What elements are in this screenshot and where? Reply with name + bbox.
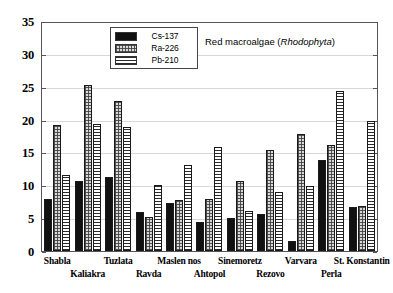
bar-group [286,23,316,251]
x-tick-label: Kaliakra [57,269,119,280]
bar-group [42,23,72,251]
y-tick-label: 30 [22,47,34,62]
chart-legend: Cs-137 Ra-226 Pb-210 [110,27,198,69]
bar-pb-210-maslen-nos [184,165,192,251]
bar-cs-137-ravda [136,212,144,251]
x-tick-label: Shabla [26,256,88,267]
bar-pb-210-sinemoretz [245,211,253,251]
bar-pb-210-varvara [306,186,314,251]
x-tick-label: Varvara [270,256,332,267]
bar-cs-137-kaliakra [75,181,83,251]
bar-ra-226-maslen-nos [175,200,183,251]
bar-ra-226-kaliakra [84,85,92,251]
x-tick-label: Tuzlata [87,256,149,267]
y-tick-label: 25 [22,80,34,95]
bar-cs-137-st-konstantin [349,207,357,251]
y-tick-label: 10 [22,179,34,194]
legend-item-cs-137: Cs-137 [115,31,193,41]
legend-label-pb-210: Pb-210 [137,55,193,65]
bar-group [225,23,255,251]
bar-cs-137-tuzlata [105,177,113,251]
legend-swatch-pb-210 [115,56,137,65]
bar-pb-210-shabla [62,175,70,251]
x-tick-label: Ahtopol [179,269,241,280]
bar-pb-210-rezovo [275,192,283,251]
bar-ra-226-st-konstantin [358,206,366,251]
legend-swatch-ra-226 [115,44,137,53]
bar-cs-137-sinemoretz [227,218,235,251]
bar-groups [42,23,377,251]
annotation-taxon: Rhodophyta [281,36,332,47]
bar-cs-137-rezovo [257,214,265,251]
bar-cs-137-perla [318,160,326,251]
bar-ra-226-perla [327,145,335,251]
bar-pb-210-st-konstantin [367,121,375,251]
annotation-suffix: ) [332,36,335,47]
bar-ra-226-rezovo [266,150,274,251]
bar-pb-210-ahtopol [214,147,222,251]
bar-pb-210-tuzlata [123,127,131,251]
legend-item-ra-226: Ra-226 [115,43,193,53]
bar-pb-210-kaliakra [93,124,101,251]
legend-label-cs-137: Cs-137 [137,31,193,41]
x-tick-label: Rezovo [239,269,301,280]
bar-group [72,23,102,251]
bar-ra-226-varvara [297,134,305,251]
bar-group [347,23,377,251]
bar-cs-137-varvara [288,241,296,251]
bar-cs-137-maslen-nos [166,203,174,251]
y-tick-label: 15 [22,146,34,161]
x-tick-label: Maslen nos [148,256,210,267]
bar-group [255,23,285,251]
bar-cs-137-shabla [44,199,52,251]
x-axis-labels: ShablaKaliakraTuzlataRavdaMaslen nosAhto… [42,252,377,293]
bar-ra-226-ahtopol [205,199,213,251]
bar-group [194,23,224,251]
legend-label-ra-226: Ra-226 [137,43,193,53]
bar-group [316,23,346,251]
x-tick-label: Perla [300,269,362,280]
bar-ra-226-shabla [53,125,61,251]
bar-ra-226-sinemoretz [236,181,244,251]
y-axis: 05101520253035 [0,0,41,293]
legend-item-pb-210: Pb-210 [115,55,193,65]
bar-pb-210-ravda [154,185,162,251]
legend-swatch-cs-137 [115,32,137,41]
x-tick-label: Ravda [118,269,180,280]
y-tick-label: 5 [28,212,34,227]
bar-ra-226-tuzlata [114,101,122,251]
bar-cs-137-ahtopol [196,222,204,251]
x-tick-label: Sinemoretz [209,256,271,267]
y-tick-label: 20 [22,113,34,128]
chart-annotation: Red macroalgae (Rhodophyta) [205,36,335,47]
annotation-prefix: Red macroalgae ( [205,36,281,47]
y-tick-label: 35 [22,15,34,30]
bar-ra-226-ravda [145,217,153,251]
x-tick-label: St. Konstantin [331,256,393,267]
bar-pb-210-perla [336,91,344,251]
